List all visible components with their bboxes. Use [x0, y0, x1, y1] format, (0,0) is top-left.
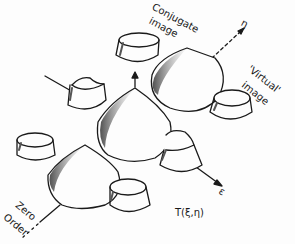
fourier-transform-diagram: Conjugate image η 'Virtual' image ε T(ξ,…: [0, 0, 295, 244]
epsilon-axis: [196, 167, 222, 186]
frustum-left: [17, 133, 55, 160]
transform-label: T(ξ,η): [175, 208, 204, 218]
frustum-central-right: [160, 131, 202, 172]
incident-line: [45, 76, 73, 92]
central-up-arrow: [132, 72, 138, 87]
frustum-upper-left: [68, 78, 106, 109]
frustum-conjugate: [116, 33, 159, 62]
diagram-drawing: [0, 0, 295, 244]
frustum-virtual-right: [210, 90, 252, 119]
eta-axis: [212, 28, 244, 58]
